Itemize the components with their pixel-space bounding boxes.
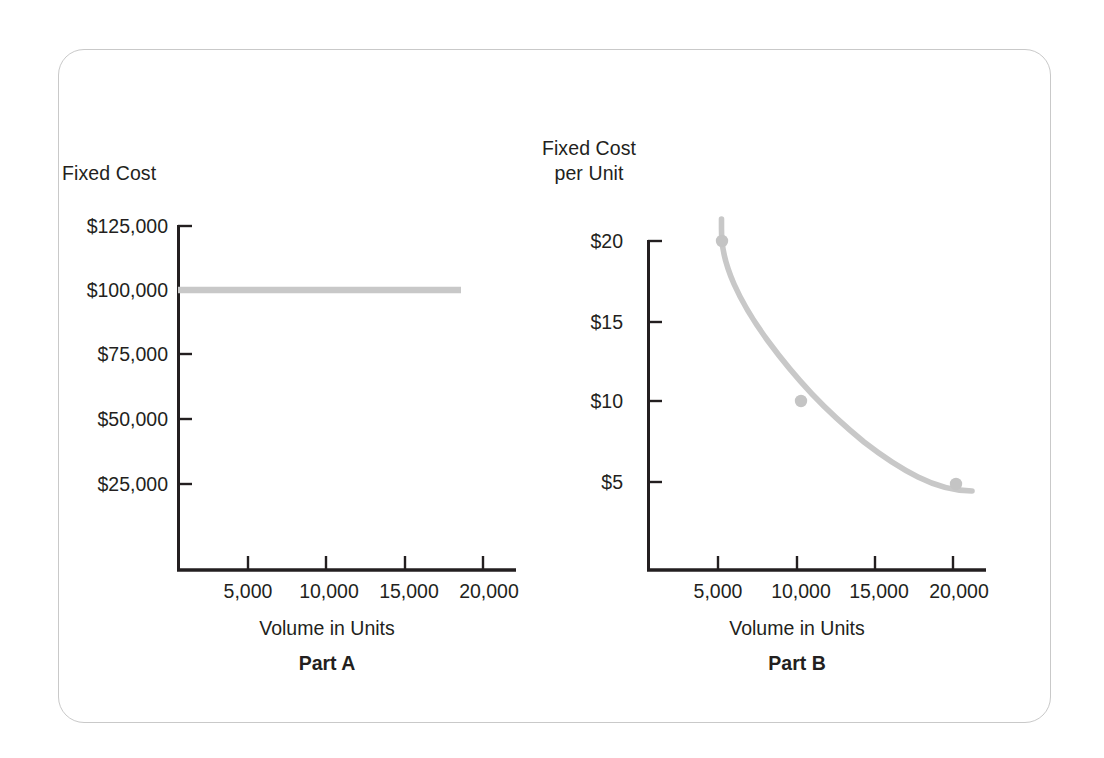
panel-b-marker-20000-units xyxy=(950,478,962,490)
panel-b-xtick-label-15000: 15,000 xyxy=(849,580,909,603)
panel-b-x-axis-title: Volume in Units xyxy=(729,617,864,640)
chart-panel-part-b: Fixed Cost per Unit $20 $15 $10 $5 xyxy=(0,0,1104,758)
panel-b-xtick-label-20000: 20,000 xyxy=(929,580,989,603)
panel-b-x-ticks xyxy=(718,556,953,570)
panel-b-y-ticks xyxy=(648,241,662,482)
panel-b-part-label: Part B xyxy=(768,652,825,675)
panel-b-xtick-label-5000: 5,000 xyxy=(694,580,743,603)
figure-canvas: Fixed Cost $125,000 $100,000 $75,000 $50… xyxy=(0,0,1104,758)
panel-b-curve xyxy=(722,219,973,491)
panel-b-plot-area xyxy=(0,0,1104,640)
panel-b-marker-10000-units xyxy=(795,395,807,407)
panel-b-marker-5000-units xyxy=(716,235,728,247)
panel-b-xtick-label-10000: 10,000 xyxy=(771,580,831,603)
